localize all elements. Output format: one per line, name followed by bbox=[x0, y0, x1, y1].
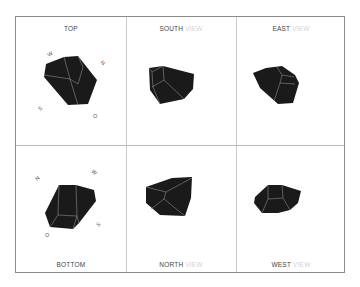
east-view-shape bbox=[236, 17, 346, 145]
south-view-shape bbox=[126, 17, 236, 145]
svg-text:W: W bbox=[46, 49, 54, 57]
view-west: WESTVIEW bbox=[236, 145, 346, 274]
bottom-view-shape: N W O S bbox=[16, 145, 126, 274]
svg-text:N: N bbox=[34, 175, 41, 182]
view-east: EASTVIEW bbox=[236, 17, 346, 145]
svg-text:S: S bbox=[95, 221, 102, 228]
svg-text:W: W bbox=[90, 168, 98, 176]
view-top: TOP W N S O bbox=[16, 17, 126, 145]
svg-text:N: N bbox=[99, 59, 106, 66]
top-view-shape: W N S O bbox=[16, 17, 126, 145]
view-bottom: BOTTOM N W O S bbox=[16, 145, 126, 274]
north-view-shape bbox=[126, 145, 236, 274]
view-south: SOUTHVIEW bbox=[126, 17, 236, 145]
view-north: NORTHVIEW bbox=[126, 145, 236, 274]
svg-text:O: O bbox=[93, 113, 98, 119]
views-grid-frame: TOP W N S O SOUTHVIEW EASTVIEW bbox=[15, 16, 345, 273]
svg-text:S: S bbox=[37, 105, 44, 112]
svg-text:O: O bbox=[45, 232, 50, 238]
west-view-shape bbox=[236, 145, 346, 274]
